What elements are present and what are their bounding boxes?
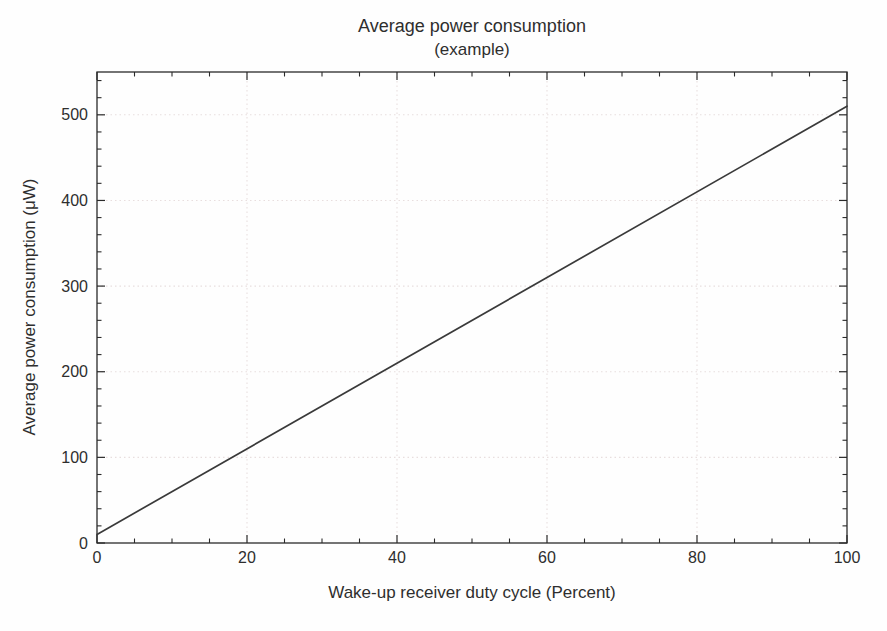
y-axis-label: Average power consumption (μW) — [20, 178, 40, 435]
y-tick-label: 100 — [61, 449, 88, 466]
x-tick-label: 20 — [238, 549, 256, 566]
y-tick-label: 400 — [61, 192, 88, 209]
x-tick-label: 60 — [538, 549, 556, 566]
data-line — [97, 106, 847, 534]
figure: Average power consumption (example) 0204… — [0, 0, 887, 631]
x-tick-label: 100 — [834, 549, 861, 566]
plot-area: 0204060801000100200300400500 — [0, 0, 887, 631]
x-tick-label: 80 — [688, 549, 706, 566]
x-tick-label: 0 — [93, 549, 102, 566]
plot-box — [97, 72, 847, 543]
y-tick-label: 200 — [61, 363, 88, 380]
y-tick-label: 0 — [79, 535, 88, 552]
x-axis-label: Wake-up receiver duty cycle (Percent) — [97, 583, 847, 603]
y-tick-label: 500 — [61, 106, 88, 123]
y-tick-label: 300 — [61, 278, 88, 295]
x-tick-label: 40 — [388, 549, 406, 566]
